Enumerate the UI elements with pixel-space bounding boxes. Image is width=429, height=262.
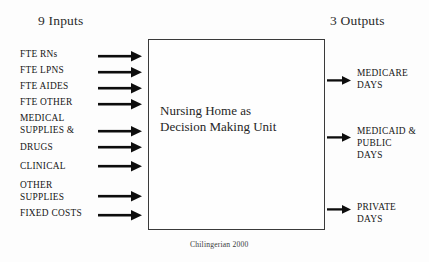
input-label-fte-lpns-line-1: FTE LPNS (20, 64, 64, 76)
input-label-fte-aides-line-1: FTE AIDES (20, 80, 68, 92)
figure-caption: Chilingerian 2000 (190, 240, 248, 249)
input-label-other-supplies-line-1: OTHER (20, 179, 64, 191)
input-label-fte-lpns: FTE LPNS (20, 64, 64, 76)
output-arrow-private-days (327, 204, 351, 215)
input-label-drugs: DRUGS (20, 141, 53, 153)
input-label-drugs-line-1: DRUGS (20, 141, 53, 153)
input-label-fte-rns: FTE RNs (20, 48, 57, 60)
input-label-clinical: CLINICAL (20, 160, 66, 172)
inputs-heading: 9 Inputs (38, 13, 83, 29)
output-label-private-days-line-2: DAYS (357, 213, 396, 225)
input-arrow-medical-supplies-and (98, 125, 142, 136)
input-label-fixed-costs: FIXED COSTS (20, 207, 82, 219)
input-arrow-fte-other (98, 98, 142, 109)
input-label-medical-supplies-and: MEDICALSUPPLIES & (20, 112, 74, 136)
output-label-medicare-days: MEDICAREDAYS (357, 67, 408, 91)
input-arrow-other-supplies (98, 190, 142, 201)
input-arrow-fte-aides (98, 82, 142, 93)
input-label-fte-rns-line-1: FTE RNs (20, 48, 57, 60)
output-arrow-medicare-days (327, 75, 351, 86)
input-label-fte-other: FTE OTHER (20, 96, 73, 108)
input-arrow-fixed-costs (98, 209, 142, 220)
input-label-medical-supplies-and-line-2: SUPPLIES & (20, 124, 74, 136)
input-label-other-supplies-line-2: SUPPLIES (20, 191, 64, 203)
output-label-medicaid-and-public-days-line-2: PUBLIC (357, 137, 416, 149)
output-label-private-days-line-1: PRIVATE (357, 201, 396, 213)
decision-making-unit-label: Nursing Home as Decision Making Unit (160, 103, 315, 135)
output-label-medicaid-and-public-days-line-1: MEDICAID & (357, 125, 416, 137)
input-arrow-fte-lpns (98, 66, 142, 77)
input-arrow-drugs (98, 141, 142, 152)
input-arrow-clinical (98, 160, 142, 171)
output-label-medicare-days-line-1: MEDICARE (357, 67, 408, 79)
input-label-clinical-line-1: CLINICAL (20, 160, 66, 172)
input-label-fte-other-line-1: FTE OTHER (20, 96, 73, 108)
output-arrow-medicaid-and-public-days (327, 132, 351, 143)
output-label-medicaid-and-public-days: MEDICAID &PUBLICDAYS (357, 125, 416, 162)
diagram-canvas: 9 Inputs 3 Outputs Nursing Home as Decis… (0, 0, 429, 262)
input-label-other-supplies: OTHERSUPPLIES (20, 179, 64, 203)
output-label-medicare-days-line-2: DAYS (357, 79, 408, 91)
input-label-fixed-costs-line-1: FIXED COSTS (20, 207, 82, 219)
dmu-label-line-1: Nursing Home as (160, 103, 315, 119)
input-label-fte-aides: FTE AIDES (20, 80, 68, 92)
outputs-heading: 3 Outputs (330, 13, 385, 29)
dmu-label-line-2: Decision Making Unit (160, 119, 315, 135)
input-arrow-fte-rns (98, 50, 142, 61)
output-label-medicaid-and-public-days-line-3: DAYS (357, 149, 416, 161)
output-label-private-days: PRIVATEDAYS (357, 201, 396, 225)
input-label-medical-supplies-and-line-1: MEDICAL (20, 112, 74, 124)
